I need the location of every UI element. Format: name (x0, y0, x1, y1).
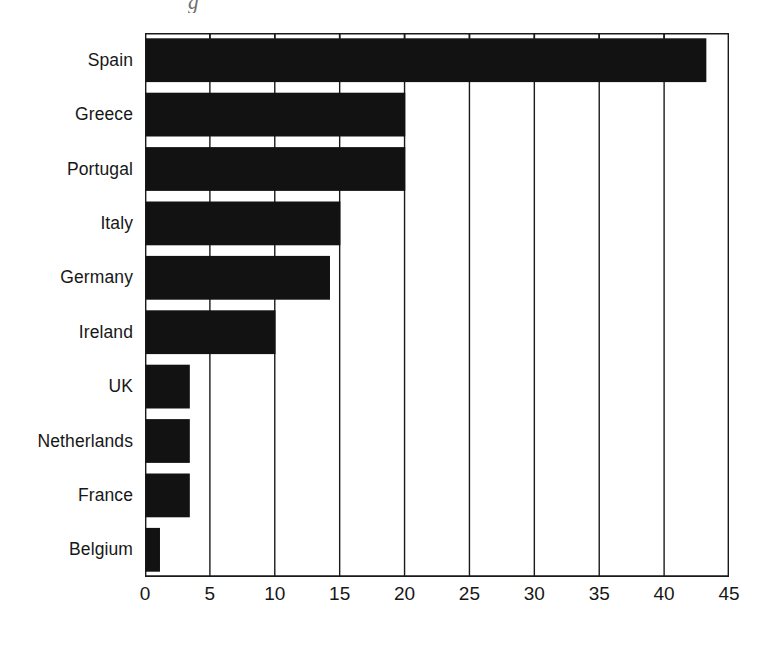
category-label-ireland: Ireland (0, 324, 133, 342)
category-axis-labels: SpainGreecePortugalItalyGermanyIrelandUK… (0, 33, 133, 577)
x-tick-label-20: 20 (375, 583, 435, 605)
category-label-netherlands: Netherlands (0, 433, 133, 451)
category-label-belgium: Belgium (0, 541, 133, 559)
category-label-greece: Greece (0, 106, 133, 124)
category-label-italy: Italy (0, 215, 133, 233)
x-tick-label-45: 45 (699, 583, 759, 605)
category-label-germany: Germany (0, 269, 133, 287)
x-tick-label-30: 30 (504, 583, 564, 605)
x-tick-label-25: 25 (439, 583, 499, 605)
category-label-portugal: Portugal (0, 161, 133, 179)
x-tick-label-0: 0 (115, 583, 175, 605)
bar-spain (146, 38, 707, 82)
bar-france (146, 474, 190, 518)
plot-svg (145, 33, 729, 577)
category-label-uk: UK (0, 378, 133, 396)
bar-belgium (146, 528, 160, 572)
bar-portugal (146, 147, 406, 191)
value-axis-labels: 051015202530354045 (0, 583, 770, 613)
x-tick-label-35: 35 (569, 583, 629, 605)
x-tick-label-40: 40 (634, 583, 694, 605)
bar-germany (146, 256, 330, 300)
bar-uk (146, 365, 190, 409)
bar-greece (146, 93, 406, 137)
category-label-france: France (0, 487, 133, 505)
x-tick-label-15: 15 (310, 583, 370, 605)
bar-ireland (146, 310, 276, 354)
bar-netherlands (146, 419, 190, 463)
category-label-spain: Spain (0, 52, 133, 70)
plot-area (145, 33, 729, 577)
bar-italy (146, 202, 341, 246)
bars-group (146, 38, 707, 571)
x-tick-label-10: 10 (245, 583, 305, 605)
scan-artifact-glyph: g (188, 0, 214, 13)
bar-chart-figure: g SpainGreecePortugalItalyGermanyIreland… (0, 0, 770, 652)
x-tick-label-5: 5 (180, 583, 240, 605)
